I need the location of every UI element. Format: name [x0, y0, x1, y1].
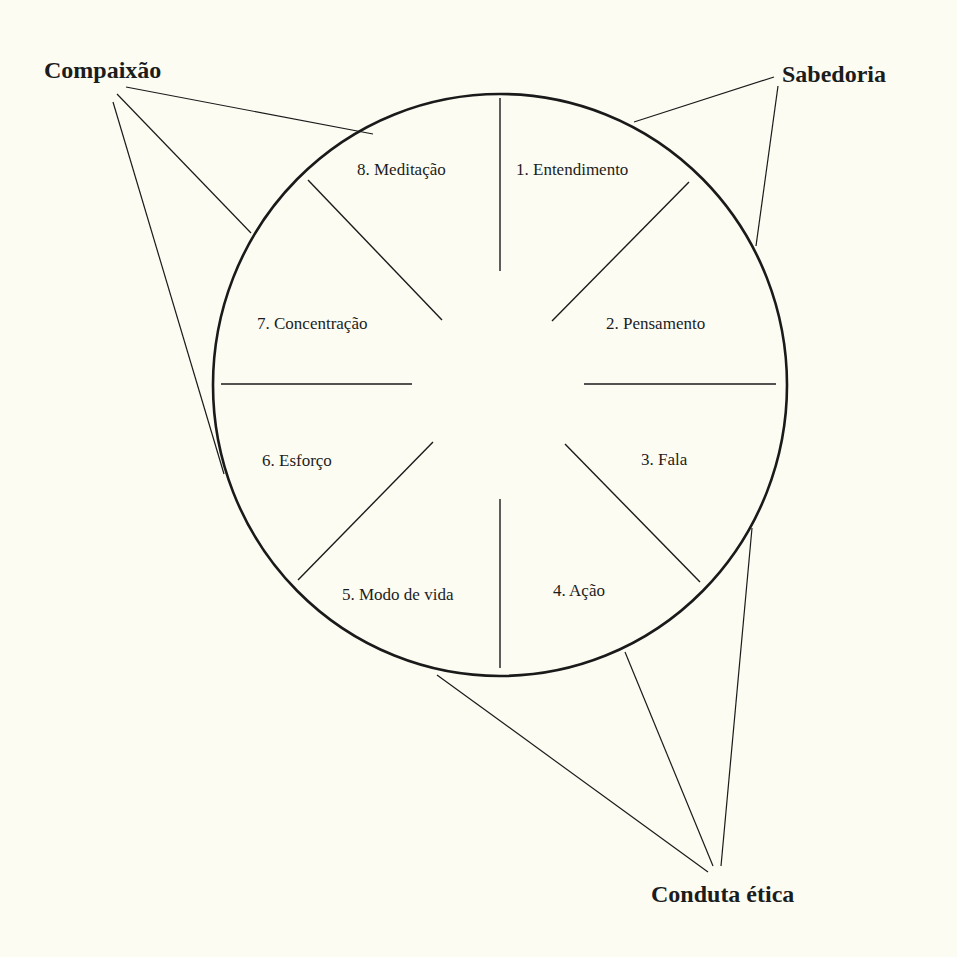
connector-wisdom-thought — [756, 86, 778, 246]
connector-compassion-effort — [113, 102, 224, 474]
eightfold-path-diagram: 1. Entendimento 2. Pensamento 3. Fala 4.… — [0, 0, 957, 957]
wheel-graphic — [0, 0, 957, 957]
segment-label-livelihood: 5. Modo de vida — [342, 586, 453, 603]
group-label-compassion: Compaixão — [44, 58, 161, 82]
connector-ethics-speech — [721, 528, 752, 866]
connector-ethics-action — [625, 652, 713, 866]
connector-compassion-meditation — [126, 87, 373, 134]
group-label-ethics: Conduta ética — [651, 882, 794, 906]
spoke-top-right — [552, 182, 689, 321]
segment-label-concentration: 7. Concentração — [257, 315, 367, 332]
segment-label-understanding: 1. Entendimento — [516, 161, 628, 178]
spoke-top-left — [308, 180, 442, 320]
segment-label-effort: 6. Esforço — [262, 452, 332, 469]
group-label-wisdom: Sabedoria — [782, 62, 886, 86]
connector-compassion-concentration — [117, 94, 251, 233]
connector-ethics-livelihood — [437, 675, 708, 872]
segment-label-meditation: 8. Meditação — [357, 161, 446, 178]
connector-wisdom-understanding — [634, 77, 774, 122]
segment-label-speech: 3. Fala — [641, 451, 687, 468]
segment-label-action: 4. Ação — [553, 582, 605, 599]
segment-label-thought: 2. Pensamento — [606, 315, 705, 332]
